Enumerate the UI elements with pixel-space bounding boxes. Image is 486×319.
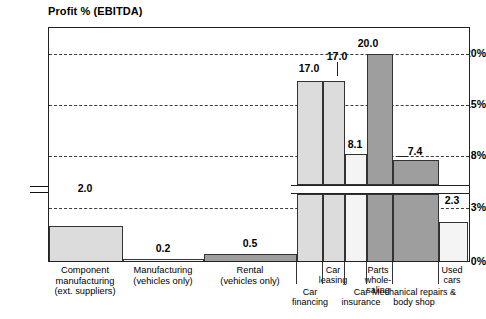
bar-value-car-leasing: 17.0 [327, 50, 347, 62]
bar-car-financing-lower[interactable] [297, 194, 323, 262]
bar-parts-wholesaling-upper[interactable] [367, 54, 393, 185]
bar-car-financing-upper[interactable] [297, 81, 323, 185]
bar-value-mechanical-repairs-leader [398, 156, 408, 157]
bar-parts-wholesaling-lower[interactable] [367, 194, 393, 262]
x-tick-sep-3 [344, 262, 345, 284]
bar-value-rental: 0.5 [243, 237, 258, 249]
gridline-15 [49, 105, 469, 106]
bar-value-car-insurance: 8.1 [348, 138, 363, 150]
x-tick-sep-4 [366, 262, 367, 284]
bar-value-parts-wholesaling: 20.0 [358, 37, 378, 49]
x-label-used-cars: Used cars [430, 265, 474, 285]
gridline-20 [49, 54, 469, 55]
x-label-manufacturing: Manufacturing (vehicles only) [115, 265, 211, 286]
chart-container: Profit % (EBITDA) 20% 15% 8% 3% 0% [0, 0, 486, 319]
x-label-car-financing: Car financing [283, 287, 337, 307]
bar-component-manufacturing[interactable] [49, 226, 123, 262]
bar-used-cars[interactable] [439, 222, 468, 262]
x-label-mechanical-repairs: Mechanical repairs & body shop [364, 287, 464, 307]
x-tick-sep-1 [296, 262, 297, 284]
bar-car-insurance-lower[interactable] [345, 194, 367, 262]
bar-value-car-financing: 17.0 [299, 62, 319, 74]
bar-value-car-leasing-leader [337, 62, 338, 76]
bar-car-insurance-upper[interactable] [345, 154, 367, 185]
bar-value-manufacturing: 0.2 [156, 242, 171, 254]
bar-manufacturing[interactable] [123, 259, 204, 262]
bar-car-leasing-lower[interactable] [323, 194, 345, 262]
plot-axis-break-lower [291, 193, 470, 194]
bar-value-used-cars: 2.3 [445, 194, 460, 206]
bar-rental[interactable] [204, 254, 297, 262]
x-tick-sep-2 [322, 262, 323, 284]
bar-car-leasing-upper[interactable] [323, 81, 345, 185]
bar-mechanical-repairs-upper[interactable] [393, 160, 439, 185]
x-label-car-leasing: Car leasing [313, 265, 353, 285]
x-tick-sep-5 [392, 262, 393, 284]
page-title: Profit % (EBITDA) [48, 5, 143, 17]
plot-area [48, 27, 470, 262]
bar-value-mechanical-repairs: 7.4 [408, 145, 423, 157]
x-label-rental: Rental (vehicles only) [204, 265, 296, 286]
bar-mechanical-repairs-lower[interactable] [393, 194, 439, 262]
x-tick-sep-6 [438, 262, 439, 284]
plot-axis-break-upper [291, 185, 470, 186]
bar-value-component: 2.0 [78, 182, 93, 194]
